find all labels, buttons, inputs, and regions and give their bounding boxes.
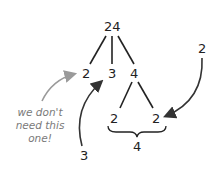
node-root: 24 [104,20,121,33]
brace [108,126,166,137]
note-line-1: we don't [10,106,70,119]
note-text: we don't need this one! [10,106,70,145]
node-level1-3: 3 [108,67,116,80]
brace-label: 4 [133,140,141,153]
node-level2-2a: 2 [110,112,118,125]
branch-24-2 [90,36,106,64]
node-level2-2b: 2 [152,112,160,125]
node-level1-4: 4 [130,67,138,80]
note-line-2: need this [10,119,70,132]
branch-4-2b [138,82,153,108]
callout-bottom-3: 3 [80,149,88,162]
callout-right-2: 2 [198,42,206,55]
branch-24-4 [118,36,134,64]
note-line-3: one! [10,132,70,145]
two-arrow [166,58,202,116]
node-level1-2: 2 [82,67,90,80]
branch-4-2a [120,82,132,108]
note-arrow [42,74,74,101]
three-arrow [79,82,101,146]
